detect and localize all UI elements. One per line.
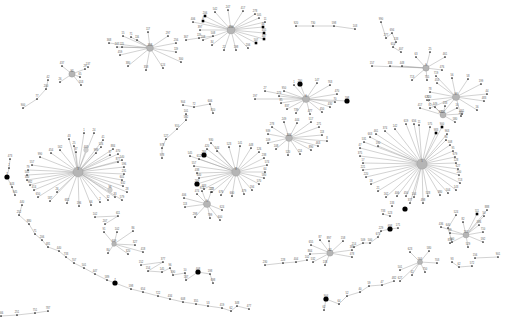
- cluster-leaf-node[interactable]: [254, 98, 256, 100]
- chain-node[interactable]: [172, 274, 174, 276]
- cluster-leaf-node[interactable]: [329, 84, 331, 86]
- cluster-leaf-node[interactable]: [295, 112, 297, 114]
- cluster-leaf-node[interactable]: [254, 13, 256, 15]
- cluster-leaf-node[interactable]: [482, 231, 484, 233]
- cluster-leaf-node[interactable]: [108, 42, 110, 44]
- cluster-leaf-node[interactable]: [228, 146, 230, 148]
- cluster-leaf-node[interactable]: [31, 164, 33, 166]
- chain-node[interactable]: [391, 32, 393, 34]
- cluster-leaf-node[interactable]: [258, 17, 260, 19]
- chain-node[interactable]: [22, 107, 24, 109]
- chain-node[interactable]: [83, 267, 85, 269]
- cluster-leaf-node[interactable]: [318, 126, 320, 128]
- cluster-leaf-node[interactable]: [377, 190, 379, 192]
- chain-node[interactable]: [389, 215, 391, 217]
- cluster-leaf-node[interactable]: [116, 46, 118, 48]
- cluster-leaf-node[interactable]: [175, 42, 177, 44]
- cluster-leaf-node[interactable]: [231, 195, 233, 197]
- cluster-leaf-node[interactable]: [449, 144, 451, 146]
- cluster-leaf-node[interactable]: [194, 216, 196, 218]
- cluster-leaf-node[interactable]: [267, 133, 269, 135]
- cluster-leaf-node[interactable]: [429, 107, 431, 109]
- chain-node[interactable]: [140, 264, 142, 266]
- cluster-leaf-node[interactable]: [127, 65, 129, 67]
- chain-node[interactable]: [0, 315, 2, 317]
- cluster-leaf-node[interactable]: [214, 11, 216, 13]
- chain-node[interactable]: [161, 147, 163, 149]
- cluster-leaf-node[interactable]: [59, 81, 61, 83]
- cluster-leaf-node[interactable]: [243, 193, 245, 195]
- cluster-leaf-node[interactable]: [83, 132, 85, 134]
- cluster-leaf-node[interactable]: [310, 149, 312, 151]
- cluster-leaf-node[interactable]: [309, 253, 311, 255]
- cluster-leaf-node[interactable]: [145, 69, 147, 71]
- chain-node[interactable]: [169, 267, 171, 269]
- cluster-leaf-node[interactable]: [321, 134, 323, 136]
- cluster-leaf-node[interactable]: [342, 240, 344, 242]
- cluster-leaf-node[interactable]: [80, 84, 82, 86]
- cluster-leaf-node[interactable]: [316, 82, 318, 84]
- cluster-leaf-node[interactable]: [426, 79, 428, 81]
- cluster-leaf-node[interactable]: [242, 10, 244, 12]
- cluster-leaf-node[interactable]: [435, 75, 437, 77]
- cluster-leaf-node[interactable]: [413, 123, 415, 125]
- cluster-leaf-node[interactable]: [117, 161, 119, 163]
- cluster-leaf-node[interactable]: [415, 56, 417, 58]
- chain-node[interactable]: [176, 128, 178, 130]
- chain-node[interactable]: [169, 298, 171, 300]
- cluster-leaf-node[interactable]: [75, 151, 77, 153]
- chain-node[interactable]: [221, 307, 223, 309]
- cluster-leaf-node[interactable]: [365, 176, 367, 178]
- cluster-leaf-node[interactable]: [61, 65, 63, 67]
- chain-node[interactable]: [354, 28, 356, 30]
- chain-node[interactable]: [338, 303, 340, 305]
- cluster-leaf-node[interactable]: [310, 244, 312, 246]
- chain-node[interactable]: [147, 270, 149, 272]
- cluster-leaf-node[interactable]: [389, 65, 391, 67]
- chain-node[interactable]: [184, 272, 186, 274]
- chain-node[interactable]: [65, 256, 67, 258]
- cluster-leaf-node[interactable]: [429, 126, 431, 128]
- cluster-leaf-node[interactable]: [59, 149, 61, 151]
- chain-node[interactable]: [117, 215, 119, 217]
- cluster-leaf-node[interactable]: [405, 123, 407, 125]
- cluster-leaf-node[interactable]: [317, 145, 319, 147]
- cluster-leaf-node[interactable]: [394, 128, 396, 130]
- chain-node[interactable]: [182, 301, 184, 303]
- cluster-leaf-node[interactable]: [267, 142, 269, 144]
- chain-node[interactable]: [157, 295, 159, 297]
- cluster-leaf-node[interactable]: [409, 251, 411, 253]
- cluster-leaf-node[interactable]: [457, 168, 459, 170]
- cluster-leaf-node[interactable]: [266, 164, 268, 166]
- chain-node[interactable]: [458, 266, 460, 268]
- cluster-leaf-node[interactable]: [100, 146, 102, 148]
- cluster-leaf-node[interactable]: [73, 145, 75, 147]
- chain-node[interactable]: [130, 288, 132, 290]
- cluster-leaf-node[interactable]: [296, 122, 298, 124]
- cluster-leaf-node[interactable]: [334, 101, 336, 103]
- cluster-leaf-node[interactable]: [33, 189, 35, 191]
- chain-node[interactable]: [207, 305, 209, 307]
- cluster-leaf-node[interactable]: [56, 191, 58, 193]
- cluster-leaf-node[interactable]: [183, 197, 185, 199]
- chain-node[interactable]: [47, 79, 49, 81]
- cluster-leaf-node[interactable]: [79, 76, 81, 78]
- cluster-leaf-node[interactable]: [189, 155, 191, 157]
- cluster-leaf-node[interactable]: [456, 107, 458, 109]
- cluster-leaf-node[interactable]: [362, 169, 364, 171]
- cluster-leaf-node[interactable]: [258, 183, 260, 185]
- chain-node[interactable]: [209, 273, 211, 275]
- chain-node[interactable]: [94, 273, 96, 275]
- chain-node[interactable]: [402, 206, 407, 211]
- cluster-leaf-node[interactable]: [429, 91, 431, 93]
- cluster-leaf-node[interactable]: [116, 231, 118, 233]
- cluster-leaf-node[interactable]: [454, 121, 456, 123]
- chain-node[interactable]: [193, 106, 195, 108]
- cluster-leaf-node[interactable]: [418, 124, 420, 126]
- chain-node[interactable]: [395, 41, 397, 43]
- cluster-leaf-node[interactable]: [223, 49, 225, 51]
- chain-node[interactable]: [471, 265, 473, 267]
- cluster-leaf-node[interactable]: [351, 249, 353, 251]
- chain-node[interactable]: [385, 37, 387, 39]
- cluster-leaf-node[interactable]: [210, 142, 212, 144]
